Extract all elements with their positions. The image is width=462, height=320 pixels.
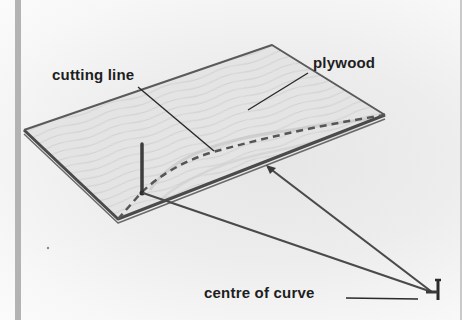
centre-of-curve-label: centre of curve [204, 284, 315, 301]
illustration-page: cutting line plywood centre of curve [0, 0, 462, 320]
edge-nail [140, 144, 145, 196]
print-speck [47, 247, 49, 249]
centre-of-curve-leader [346, 298, 418, 299]
string-line-upper [268, 167, 432, 292]
curve-marking-diagram [0, 0, 462, 320]
plywood-label: plywood [313, 54, 375, 71]
string-line-lower [143, 193, 432, 292]
cutting-line-label: cutting line [52, 66, 134, 83]
